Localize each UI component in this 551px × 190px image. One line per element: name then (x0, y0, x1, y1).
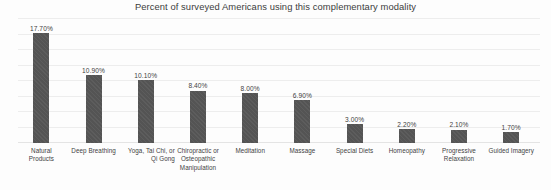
bar[interactable] (190, 91, 206, 143)
bar-group[interactable]: 8.00% (227, 18, 274, 143)
bar-group[interactable]: 2.20% (383, 18, 430, 143)
bar-group[interactable]: 10.10% (122, 18, 169, 143)
category-label-line: Natural (18, 147, 65, 155)
category-label-line: Special Diets (331, 147, 378, 155)
bar-group[interactable]: 1.70% (488, 18, 535, 143)
bar-value-label: 8.00% (241, 85, 260, 92)
category-label-line: Homeopathy (383, 147, 430, 155)
bar[interactable] (399, 129, 415, 143)
bar-value-label: 10.90% (82, 67, 105, 74)
category-label-line: Deep Breathing (70, 147, 117, 155)
bar-group[interactable]: 10.90% (70, 18, 117, 143)
bar-value-label: 2.20% (397, 121, 416, 128)
category-label: Meditation (227, 147, 274, 155)
category-label-line: Chiropractic or (169, 147, 227, 155)
bar-group[interactable]: 2.10% (436, 18, 483, 143)
category-label-line: Yoga, Tai Chi, or (117, 147, 175, 155)
bar-chart: Percent of surveyed Americans using this… (0, 0, 551, 190)
bar[interactable] (347, 124, 363, 143)
bar-group[interactable]: 8.40% (175, 18, 222, 143)
bar[interactable] (294, 100, 310, 143)
bar-value-label: 1.70% (502, 124, 521, 131)
category-label-line: Progressive (436, 147, 483, 155)
category-label: Deep Breathing (70, 147, 117, 155)
bar-value-label: 3.00% (345, 116, 364, 123)
category-label: Chiropractic orOsteopathicManipulation (169, 147, 227, 172)
bar-value-label: 10.10% (134, 72, 157, 79)
category-axis-labels: NaturalProductsDeep BreathingYoga, Tai C… (18, 147, 540, 190)
category-label: Massage (279, 147, 326, 155)
category-label-line: Guided Imagery (488, 147, 535, 155)
bar[interactable] (86, 75, 102, 143)
bar-value-label: 8.40% (188, 82, 207, 89)
category-label: Guided Imagery (488, 147, 535, 155)
bar-value-label: 2.10% (449, 121, 468, 128)
category-label: Homeopathy (383, 147, 430, 155)
plot-area: 17.70%10.90%10.10%8.40%8.00%6.90%3.00%2.… (18, 18, 540, 143)
bar[interactable] (138, 80, 154, 143)
category-label: ProgressiveRelaxation (436, 147, 483, 164)
category-label: Yoga, Tai Chi, orQi Gong (117, 147, 175, 164)
bar[interactable] (242, 93, 258, 143)
category-label-line: Qi Gong (117, 155, 175, 163)
bar[interactable] (503, 132, 519, 143)
bar-value-label: 17.70% (30, 25, 53, 32)
bar[interactable] (33, 33, 49, 143)
category-label: Special Diets (331, 147, 378, 155)
category-label-line: Massage (279, 147, 326, 155)
bar-group[interactable]: 3.00% (331, 18, 378, 143)
bar[interactable] (451, 130, 467, 143)
category-label-line: Meditation (227, 147, 274, 155)
category-label-line: Products (18, 155, 65, 163)
bars-layer: 17.70%10.90%10.10%8.40%8.00%6.90%3.00%2.… (18, 18, 540, 143)
category-label-line: Manipulation (169, 164, 227, 172)
category-label-line: Osteopathic (169, 155, 227, 163)
category-label: NaturalProducts (18, 147, 65, 164)
bar-group[interactable]: 6.90% (279, 18, 326, 143)
category-label-line: Relaxation (436, 155, 483, 163)
chart-title: Percent of surveyed Americans using this… (0, 1, 551, 12)
bar-group[interactable]: 17.70% (18, 18, 65, 143)
bar-value-label: 6.90% (293, 92, 312, 99)
